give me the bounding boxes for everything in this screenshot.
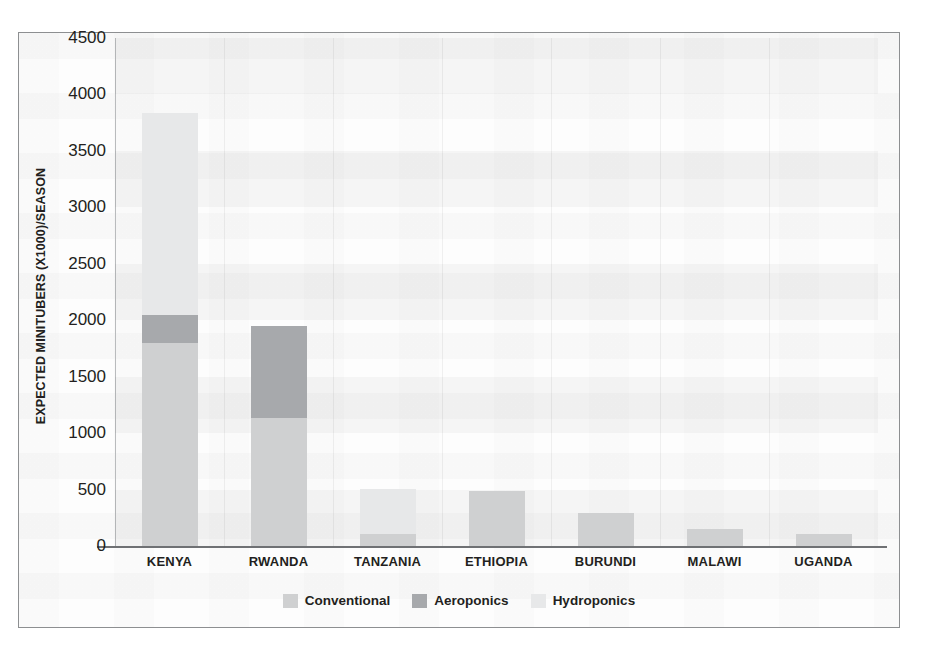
bar-group[interactable] — [251, 326, 307, 546]
bar-segment-conventional[interactable] — [251, 418, 307, 546]
bar-segment-conventional[interactable] — [796, 534, 852, 546]
y-tick-label: 3000 — [68, 197, 106, 217]
vertical-gridline — [224, 38, 225, 546]
y-tick-label: 2000 — [68, 310, 106, 330]
legend-swatch-conventional — [283, 594, 298, 608]
bar-segment-conventional[interactable] — [469, 491, 525, 546]
bar-group[interactable] — [469, 491, 525, 546]
background-band — [115, 377, 878, 433]
y-tick-label: 3500 — [68, 141, 106, 161]
y-tick-label: 4000 — [68, 84, 106, 104]
y-tick-label: 1000 — [68, 423, 106, 443]
y-tick-label: 500 — [78, 480, 106, 500]
bar-group[interactable] — [796, 534, 852, 546]
vertical-gridline — [769, 38, 770, 546]
bar-segment-aeroponics[interactable] — [142, 315, 198, 343]
y-tick-label: 1500 — [68, 367, 106, 387]
vertical-gridline — [442, 38, 443, 546]
vertical-gridline — [333, 38, 334, 546]
legend-label: Aeroponics — [434, 593, 508, 608]
x-tick-label: TANZANIA — [354, 554, 421, 569]
y-tick-label: 0 — [97, 536, 106, 556]
chart-legend: ConventionalAeroponicsHydroponics — [19, 593, 899, 608]
x-axis-line — [97, 546, 887, 548]
plot-wrapper: 050010001500200025003000350040004500 KEN… — [19, 33, 899, 627]
background-band — [115, 38, 878, 94]
legend-item[interactable]: Aeroponics — [412, 593, 508, 608]
bar-group[interactable] — [687, 529, 743, 546]
x-tick-label: BURUNDI — [575, 554, 636, 569]
x-tick-label: UGANDA — [794, 554, 852, 569]
bar-group[interactable] — [142, 113, 198, 546]
bar-segment-conventional[interactable] — [142, 343, 198, 546]
vertical-gridline — [551, 38, 552, 546]
vertical-gridline — [660, 38, 661, 546]
bar-segment-hydroponics[interactable] — [142, 113, 198, 315]
background-band — [115, 151, 878, 207]
x-tick-label: MALAWI — [688, 554, 742, 569]
x-tick-label: ETHIOPIA — [465, 554, 528, 569]
bar-segment-conventional[interactable] — [687, 529, 743, 546]
bar-segment-hydroponics[interactable] — [360, 489, 416, 534]
background-band — [115, 264, 878, 320]
bar-segment-conventional[interactable] — [578, 513, 634, 546]
x-tick-label: RWANDA — [249, 554, 308, 569]
legend-swatch-aeroponics — [412, 594, 427, 608]
bar-group[interactable] — [578, 513, 634, 546]
chart-figure: EXPECTED MINITUBERS (X1000)/SEASON 05001… — [18, 32, 900, 628]
y-tick-label: 4500 — [68, 28, 106, 48]
legend-item[interactable]: Hydroponics — [531, 593, 636, 608]
y-tick-label: 2500 — [68, 254, 106, 274]
legend-label: Conventional — [305, 593, 391, 608]
legend-item[interactable]: Conventional — [283, 593, 391, 608]
legend-swatch-hydroponics — [531, 594, 546, 608]
x-tick-label: KENYA — [147, 554, 192, 569]
bar-segment-conventional[interactable] — [360, 534, 416, 546]
plot-area: 050010001500200025003000350040004500 — [115, 38, 878, 546]
bar-group[interactable] — [360, 489, 416, 546]
legend-label: Hydroponics — [553, 593, 636, 608]
bar-segment-aeroponics[interactable] — [251, 326, 307, 418]
